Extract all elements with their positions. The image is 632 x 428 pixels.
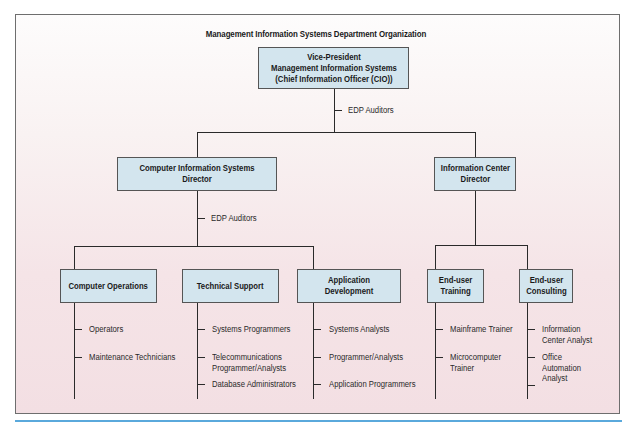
connector-line: [435, 245, 436, 269]
role-tick: [527, 357, 535, 358]
staff-tick: [334, 110, 342, 111]
connector-line: [313, 246, 314, 269]
connector-line: [435, 245, 528, 246]
node-label: Vice-President Management Information Sy…: [271, 52, 397, 85]
node-label: Application Development: [303, 275, 395, 297]
connector-line: [527, 245, 528, 269]
role-tick: [527, 329, 535, 330]
role-tick-empty: [527, 385, 535, 386]
role-tick: [74, 357, 82, 358]
role-office-automation-analyst: Office Automation Analyst: [542, 352, 581, 384]
role-telecommunications-programmer-analysts: Telecommunications Programmer/Analysts: [212, 352, 286, 373]
role-systems-analysts: Systems Analysts: [329, 324, 389, 335]
node-end-user-training: End-user Training: [427, 269, 484, 303]
bottom-rule: [15, 420, 622, 422]
role-tick: [197, 384, 205, 385]
connector-line: [74, 246, 75, 269]
connector-line: [74, 246, 314, 247]
node-label: Computer Information Systems Director: [126, 163, 268, 185]
node-application-development: Application Development: [297, 269, 401, 303]
role-tick: [313, 329, 321, 330]
role-tick: [435, 329, 443, 330]
role-mainframe-trainer: Mainframe Trainer: [450, 324, 513, 335]
node-technical-support: Technical Support: [182, 269, 279, 303]
diagram-title: Management Information Systems Departmen…: [25, 29, 606, 39]
node-end-user-consulting: End-user Consulting: [519, 269, 573, 303]
role-tick: [435, 357, 443, 358]
role-programmer-analysts: Programmer/Analysts: [329, 352, 403, 363]
node-vice-president: Vice-President Management Information Sy…: [258, 47, 409, 89]
connector-line: [74, 303, 75, 399]
connector-line: [475, 191, 476, 246]
role-database-administrators: Database Administrators: [212, 379, 296, 390]
role-systems-programmers: Systems Programmers: [212, 324, 290, 335]
role-tick: [197, 357, 205, 358]
node-label: Technical Support: [197, 281, 264, 292]
staff-tick: [197, 218, 205, 219]
node-computer-operations: Computer Operations: [60, 269, 157, 303]
connector-line: [435, 303, 436, 399]
node-label: Information Center Director: [440, 163, 509, 185]
node-label: End-user Training: [439, 275, 473, 297]
connector-line: [197, 132, 476, 133]
connector-line: [475, 132, 476, 157]
node-cis-director: Computer Information Systems Director: [117, 157, 277, 191]
staff-edp-auditors-cis: EDP Auditors: [211, 213, 257, 224]
role-tick: [313, 384, 321, 385]
role-maintenance-technicians: Maintenance Technicians: [89, 352, 175, 363]
role-tick: [74, 329, 82, 330]
role-application-programmers: Application Programmers: [329, 379, 416, 390]
node-label: Computer Operations: [69, 281, 149, 292]
role-operators: Operators: [89, 324, 123, 335]
role-tick: [197, 329, 205, 330]
node-label: End-user Consulting: [526, 275, 566, 297]
role-information-center-analyst: Information Center Analyst: [542, 324, 592, 345]
connector-line: [197, 132, 198, 157]
node-ic-director: Information Center Director: [434, 157, 516, 191]
staff-edp-auditors-vp: EDP Auditors: [348, 105, 394, 116]
role-microcomputer-trainer: Microcomputer Trainer: [450, 352, 501, 373]
role-tick: [313, 357, 321, 358]
